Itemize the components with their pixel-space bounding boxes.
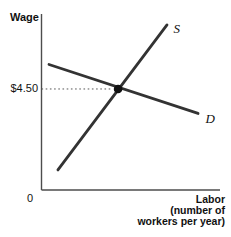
- equilibrium-point: [114, 85, 123, 94]
- x-axis-title: Labor (number of workers per year): [137, 194, 225, 227]
- origin-label: 0: [24, 193, 36, 204]
- supply-curve-label: S: [173, 21, 180, 36]
- x-axis-title-line-3: workers per year): [137, 216, 225, 227]
- labor-market-supply-demand-figure: Wage $4.50 S D 0 Labor (number of worker…: [0, 0, 231, 237]
- demand-curve-label: D: [205, 111, 216, 126]
